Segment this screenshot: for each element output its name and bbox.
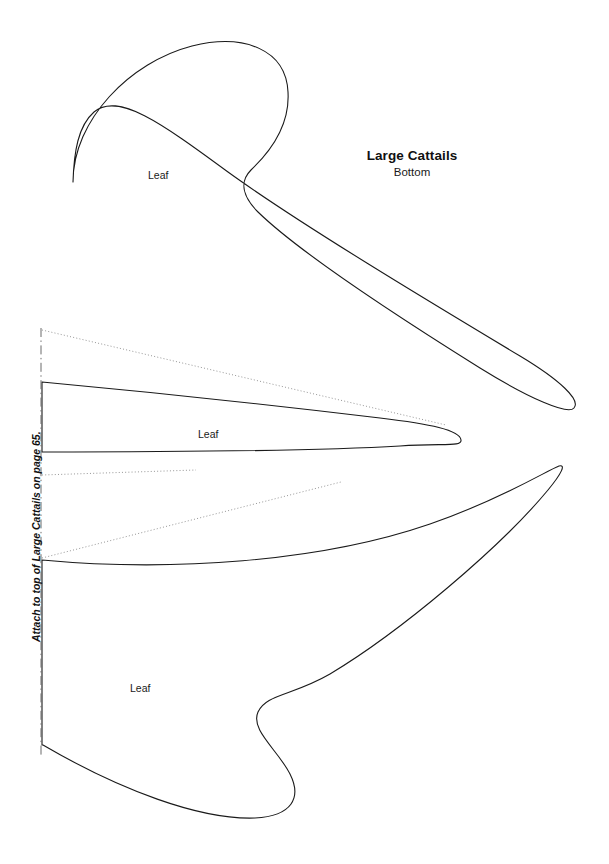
leaf-shape-top xyxy=(73,42,575,410)
leaf-label-bottom: Leaf xyxy=(130,682,150,694)
leaf-shape-middle xyxy=(42,382,461,452)
leaf-label-top: Leaf xyxy=(148,169,168,181)
guide-line-upper-dotted xyxy=(42,330,446,425)
pattern-title-block: Large Cattails Bottom xyxy=(332,148,492,179)
pattern-page: Large Cattails Bottom Leaf Leaf Leaf Att… xyxy=(0,0,609,864)
page-title: Large Cattails xyxy=(332,148,492,165)
leaf-shape-bottom xyxy=(42,466,562,818)
pattern-drawing xyxy=(0,0,609,864)
guide-line-short-dotted xyxy=(42,470,196,475)
page-subtitle: Bottom xyxy=(332,165,492,179)
fold-line-note: Attach to top of Large Cattails on page … xyxy=(30,431,42,642)
leaf-label-middle: Leaf xyxy=(198,428,218,440)
guide-line-lower-dotted xyxy=(42,482,341,558)
